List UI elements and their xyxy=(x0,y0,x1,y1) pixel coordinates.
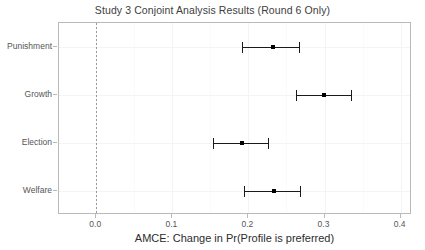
errorbar-cap-upper xyxy=(268,138,269,149)
x-axis-tick-mark xyxy=(171,214,172,218)
point-estimate-marker xyxy=(271,45,275,49)
y-axis-tick-label: Punishment xyxy=(7,41,52,51)
errorbar-cap-lower xyxy=(242,42,243,53)
plot-panel xyxy=(58,22,411,214)
gridline-vertical-minor xyxy=(286,23,287,213)
point-estimate-marker xyxy=(272,189,276,193)
x-axis-tick-label: 0.3 xyxy=(318,219,330,229)
errorbar-cap-lower xyxy=(244,186,245,197)
x-axis-tick-label: 0.4 xyxy=(394,219,406,229)
errorbar-cap-upper xyxy=(351,90,352,101)
y-axis-tick-mark xyxy=(53,190,57,191)
gridline-vertical xyxy=(248,23,249,213)
gridline-vertical-minor xyxy=(210,23,211,213)
x-axis-tick-mark xyxy=(324,214,325,218)
chart-figure: Study 3 Conjoint Analysis Results (Round… xyxy=(0,0,425,250)
gridline-vertical-minor xyxy=(363,23,364,213)
y-axis-tick-label: Growth xyxy=(25,89,52,99)
x-axis-tick-label: 0.0 xyxy=(89,219,101,229)
x-axis-tick-label: 0.1 xyxy=(165,219,177,229)
errorbar-cap-lower xyxy=(213,138,214,149)
errorbar-cap-upper xyxy=(300,186,301,197)
x-axis-tick-label: 0.2 xyxy=(242,219,254,229)
y-axis-tick-label: Election xyxy=(22,137,52,147)
y-axis-labels: PunishmentGrowthElectionWelfare xyxy=(0,0,52,250)
y-axis-tick-mark xyxy=(53,94,57,95)
y-axis-tick-mark xyxy=(53,46,57,47)
x-axis-tick-mark xyxy=(400,214,401,218)
errorbar-cap-lower xyxy=(296,90,297,101)
chart-title: Study 3 Conjoint Analysis Results (Round… xyxy=(0,4,425,16)
gridline-horizontal xyxy=(59,191,410,192)
gridline-vertical-minor xyxy=(134,23,135,213)
gridline-vertical xyxy=(172,23,173,213)
gridline-vertical xyxy=(401,23,402,213)
y-axis-tick-label: Welfare xyxy=(23,185,52,195)
x-axis-tick-mark xyxy=(247,214,248,218)
x-axis-title: AMCE: Change in Pr(Profile is preferred) xyxy=(58,232,411,244)
zero-reference-line xyxy=(96,23,97,213)
point-estimate-marker xyxy=(322,93,326,97)
gridline-horizontal xyxy=(59,47,410,48)
errorbar-cap-upper xyxy=(299,42,300,53)
gridline-vertical xyxy=(325,23,326,213)
x-axis-tick-mark xyxy=(95,214,96,218)
gridline-horizontal xyxy=(59,95,410,96)
y-axis-tick-mark xyxy=(53,142,57,143)
point-estimate-marker xyxy=(240,141,244,145)
